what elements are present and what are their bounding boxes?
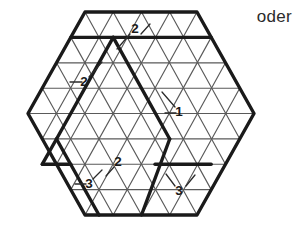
label-leader-line	[89, 62, 102, 77]
label-left-2: 2	[80, 74, 88, 89]
label-center-1: 1	[175, 104, 183, 119]
grid-line	[42, 12, 113, 139]
bold-diagonal-lower-right	[142, 139, 170, 215]
label-bottom-left-2: 2	[114, 154, 122, 169]
label-leader-line	[106, 167, 114, 176]
grid-line	[170, 12, 240, 139]
label-leader-line	[93, 170, 102, 179]
label-bottom-right-3: 3	[175, 183, 183, 198]
figure-root: 221233 oder	[0, 0, 300, 228]
label-tick-mark	[141, 24, 150, 34]
label-leader-line	[166, 174, 175, 186]
label-top-2: 2	[131, 21, 139, 36]
grid-line	[42, 88, 113, 215]
label-bottom-left-3: 3	[85, 176, 93, 191]
hexagon-triangular-grid: 221233	[0, 0, 300, 228]
oder-text-label: oder	[257, 8, 292, 25]
